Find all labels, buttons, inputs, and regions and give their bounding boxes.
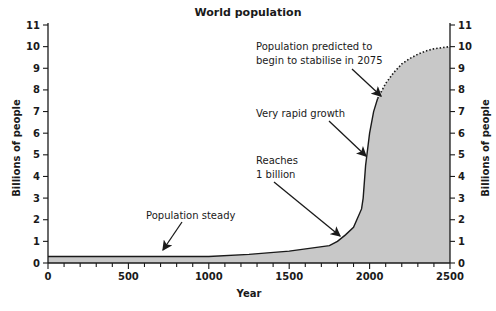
area-fill xyxy=(48,47,450,263)
x-tick-label: 1500 xyxy=(275,271,303,282)
annotation-arrow xyxy=(352,69,381,96)
y-tick-label-left: 5 xyxy=(33,149,40,160)
y-tick-label-right: 3 xyxy=(458,193,465,204)
y-tick-label-left: 6 xyxy=(33,128,40,139)
y-tick-label-left: 1 xyxy=(33,236,40,247)
annotation-rapid-growth: Very rapid growth xyxy=(256,108,345,119)
y-tick-label-left: 8 xyxy=(33,84,40,95)
y-tick-label-left: 9 xyxy=(33,63,40,74)
y-tick-label-right: 0 xyxy=(458,258,465,269)
actual-line xyxy=(48,99,378,257)
y-tick-label-left: 3 xyxy=(33,193,40,204)
y-tick-label-right: 4 xyxy=(458,171,465,182)
annotation-predicted-line2: begin to stabilise in 2075 xyxy=(256,55,383,66)
annotation-reaches-billion-line1: Reaches xyxy=(256,155,298,166)
y-tick-label-right: 9 xyxy=(458,63,465,74)
y-tick-label-right: 11 xyxy=(458,20,472,31)
y-tick-label-right: 1 xyxy=(458,236,465,247)
y-tick-label-left: 0 xyxy=(33,258,40,269)
x-axis-title: Year xyxy=(236,288,262,299)
population-chart: 0011223344556677889910101111050010001500… xyxy=(0,0,496,311)
annotation-arrow xyxy=(329,121,366,156)
x-tick-label: 1000 xyxy=(195,271,223,282)
x-tick-label: 0 xyxy=(45,271,52,282)
population-area xyxy=(48,47,450,263)
x-tick-label: 2500 xyxy=(436,271,464,282)
y-tick-label-left: 2 xyxy=(33,214,40,225)
y-tick-label-right: 5 xyxy=(458,149,465,160)
y-tick-label-left: 7 xyxy=(33,106,40,117)
annotation-predicted-line1: Population predicted to xyxy=(256,41,372,52)
annotation-population-steady: Population steady xyxy=(146,210,235,221)
y-tick-label-right: 7 xyxy=(458,106,465,117)
annotation-arrow xyxy=(163,222,182,250)
y-tick-label-left: 4 xyxy=(33,171,40,182)
y-tick-label-right: 10 xyxy=(458,41,472,52)
y-tick-label-right: 6 xyxy=(458,128,465,139)
x-tick-label: 2000 xyxy=(356,271,384,282)
y-tick-label-right: 2 xyxy=(458,214,465,225)
y-axis-title-left: Billions of people xyxy=(11,99,22,197)
x-tick-label: 500 xyxy=(118,271,139,282)
annotation-reaches-billion-line2: 1 billion xyxy=(256,169,295,180)
y-axis-title-right: Billions of people xyxy=(480,99,491,197)
y-tick-label-left: 11 xyxy=(26,20,40,31)
annotation-arrow xyxy=(274,182,340,236)
y-tick-label-right: 8 xyxy=(458,84,465,95)
y-tick-label-left: 10 xyxy=(26,41,40,52)
